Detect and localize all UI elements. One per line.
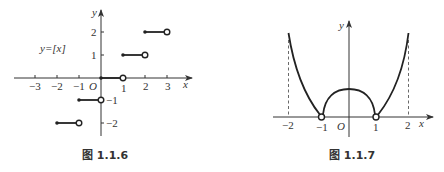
figure-piecewise-curve: x y O −2 −1 1 2 图 1.1.7 <box>273 19 433 162</box>
step-segment <box>55 120 82 126</box>
open-point <box>319 114 325 120</box>
x-axis-label: x <box>418 117 424 129</box>
step-segment <box>121 52 148 58</box>
step-segment <box>99 75 126 81</box>
x-tick-label: 1 <box>121 82 127 94</box>
y-tick-label: 1 <box>91 49 97 61</box>
right-curve <box>378 33 409 115</box>
y-tick-label: −1 <box>106 94 118 106</box>
x-tick-label: −1 <box>73 80 85 92</box>
y-tick-label: −2 <box>106 117 118 129</box>
x-axis-label: x <box>182 78 188 90</box>
figure-caption: 图 1.1.6 <box>82 149 128 162</box>
step-segment <box>143 29 170 35</box>
y-axis-label: y <box>91 6 97 18</box>
figure-step-function: x y O −3 −2 −1 1 2 3 2 1 −1 −2 y=[x] <box>14 6 192 162</box>
y-tick-label: 2 <box>91 26 97 38</box>
x-tick-label: −1 <box>316 121 328 133</box>
x-tick-label: 1 <box>373 121 379 133</box>
x-tick-label: −3 <box>29 80 41 92</box>
x-tick-label: −2 <box>282 119 294 131</box>
left-curve <box>289 33 321 115</box>
origin-label: O <box>337 120 345 132</box>
origin-label: O <box>89 80 97 92</box>
y-axis-label: y <box>338 19 344 31</box>
x-tick-label: 3 <box>165 80 171 92</box>
function-annotation: y=[x] <box>39 42 66 54</box>
x-tick-label: 2 <box>143 80 149 92</box>
x-tick-label: −2 <box>51 80 63 92</box>
x-tick-label: 2 <box>405 119 411 131</box>
figure-caption: 图 1.1.7 <box>329 149 375 162</box>
step-segment <box>77 97 104 103</box>
open-point <box>373 114 379 120</box>
